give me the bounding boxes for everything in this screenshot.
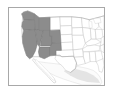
state-nebraska [60, 34, 72, 42]
state-minnesota [72, 17, 83, 28]
state-iowa [72, 27, 83, 35]
state-south-dakota [60, 26, 72, 35]
map-thumbnail [0, 0, 113, 97]
us-map-svg [9, 8, 104, 85]
state-wyoming [39, 17, 50, 30]
map-frame [8, 7, 105, 86]
state-oregon [22, 20, 35, 31]
state-alabama [89, 51, 96, 61]
lake-michigan [89, 21, 92, 29]
state-arkansas [73, 49, 83, 57]
state-north-dakota [60, 17, 72, 26]
state-kansas [61, 42, 73, 50]
